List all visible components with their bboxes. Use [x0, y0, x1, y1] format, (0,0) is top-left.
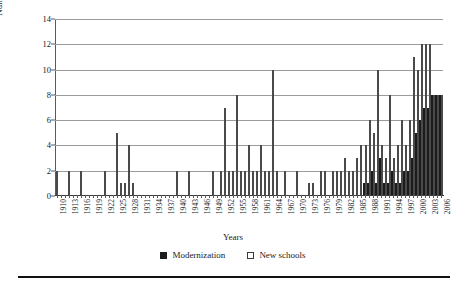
x-tick-mark [149, 195, 150, 198]
x-tick-mark [417, 195, 418, 198]
x-tick-mark [421, 195, 422, 198]
x-tick-label: 1937 [168, 199, 176, 214]
x-tick-mark [133, 195, 134, 198]
x-tick-mark [201, 195, 202, 198]
x-tick-mark [73, 195, 74, 198]
x-tick-mark [193, 195, 194, 198]
x-tick-mark [317, 195, 318, 198]
x-tick-mark [137, 195, 138, 198]
x-tick-mark [273, 195, 274, 198]
bar-new-schools [272, 70, 274, 196]
x-tick-mark [265, 195, 266, 198]
x-tick-mark [333, 195, 334, 198]
legend-swatch-modernization-icon [160, 252, 167, 259]
x-tick-label: 1973 [312, 199, 320, 214]
x-tick-label: 1955 [240, 199, 248, 214]
x-tick-mark [213, 195, 214, 198]
bottom-divider [18, 276, 450, 278]
x-tick-mark [381, 195, 382, 198]
x-tick-label: 1916 [84, 199, 92, 214]
bar-new-schools [188, 171, 190, 196]
x-tick-mark [429, 195, 430, 198]
x-tick-mark [145, 195, 146, 198]
x-tick-mark [97, 195, 98, 198]
x-tick-mark [401, 195, 402, 198]
bar-new-schools [68, 171, 70, 196]
x-tick-mark [185, 195, 186, 198]
x-tick-mark [65, 195, 66, 198]
bar-series-container [55, 19, 443, 196]
x-tick-mark [433, 195, 434, 198]
x-tick-mark [369, 195, 370, 198]
legend-item-modernization: Modernization [160, 250, 225, 260]
x-tick-mark [389, 195, 390, 198]
bar-new-schools [224, 108, 226, 197]
bar-new-schools [220, 171, 222, 196]
x-tick-mark [189, 195, 190, 198]
x-tick-mark [109, 195, 110, 198]
x-tick-mark [313, 195, 314, 198]
x-tick-mark [365, 195, 366, 198]
x-tick-label: 1979 [336, 199, 344, 214]
x-tick-label: 1919 [96, 199, 104, 214]
bar-new-schools [212, 171, 214, 196]
x-tick-mark [93, 195, 94, 198]
x-tick-mark [297, 195, 298, 198]
x-tick-mark [425, 195, 426, 198]
x-tick-mark [325, 195, 326, 198]
x-tick-label: 1952 [228, 199, 236, 214]
x-tick-label: 1928 [132, 199, 140, 214]
y-tick-label: 12 [43, 40, 52, 49]
x-tick-mark [229, 195, 230, 198]
bar-new-schools [228, 171, 230, 196]
bar-new-schools [260, 145, 262, 196]
bar-new-schools [80, 171, 82, 196]
x-tick-mark [117, 195, 118, 198]
x-tick-mark [305, 195, 306, 198]
bar-new-schools [232, 171, 234, 196]
bar-group [439, 19, 443, 196]
x-tick-mark [293, 195, 294, 198]
x-tick-mark [405, 195, 406, 198]
bar-new-schools [320, 171, 322, 196]
x-tick-label: 2003 [432, 199, 440, 214]
legend-swatch-new-schools-icon [247, 252, 254, 259]
x-tick-mark [321, 195, 322, 198]
x-tick-mark [241, 195, 242, 198]
legend-label-new-schools: New schools [259, 250, 305, 260]
x-tick-mark [337, 195, 338, 198]
bar-new-schools [268, 171, 270, 196]
x-tick-mark [309, 195, 310, 198]
x-tick-mark [361, 195, 362, 198]
x-tick-mark [341, 195, 342, 198]
bar-new-schools [356, 158, 358, 196]
x-tick-label: 1982 [348, 199, 356, 214]
x-tick-label: 1910 [60, 199, 68, 214]
x-tick-mark [89, 195, 90, 198]
x-tick-label: 1961 [264, 199, 272, 214]
bar-new-schools [324, 171, 326, 196]
x-tick-mark [233, 195, 234, 198]
x-tick-mark [413, 195, 414, 198]
bar-new-schools [352, 171, 354, 196]
bar-new-schools [441, 95, 443, 196]
x-tick-mark [281, 195, 282, 198]
x-tick-mark [169, 195, 170, 198]
x-tick-label: 1991 [384, 199, 392, 214]
bar-new-schools [348, 171, 350, 196]
legend-item-new-schools: New schools [247, 250, 305, 260]
x-tick-mark [441, 195, 442, 198]
x-tick-mark [217, 195, 218, 198]
x-tick-mark [81, 195, 82, 198]
bar-new-schools [176, 171, 178, 196]
chart-legend: Modernization New schools [0, 250, 466, 260]
x-tick-mark [141, 195, 142, 198]
x-tick-mark [261, 195, 262, 198]
x-tick-mark [257, 195, 258, 198]
bar-new-schools [276, 171, 278, 196]
legend-label-modernization: Modernization [172, 250, 225, 260]
bar-new-schools [256, 171, 258, 196]
x-tick-mark [357, 195, 358, 198]
chart-figure: Number of Schools 02468101214 1910191319… [0, 0, 466, 289]
x-tick-mark [245, 195, 246, 198]
